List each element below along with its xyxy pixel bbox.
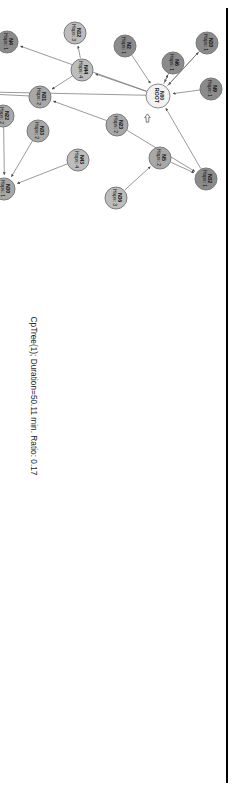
graph-edge	[163, 74, 167, 83]
graph-node-n00[interactable]: N00ROOT	[146, 83, 171, 108]
graph-edge	[164, 72, 168, 81]
figure-caption-area: CpTree(1); Duration=50.11 min. Ratio: 0.…	[21, 0, 45, 791]
node-hops-label: Hops: 2	[112, 115, 117, 132]
graph-node-n12[interactable]: N12Hops: 3	[64, 21, 87, 44]
graph-node-n5[interactable]: N5Hops: 2	[149, 146, 172, 169]
graph-edge	[173, 90, 200, 94]
page-vertical-rule	[226, 8, 228, 783]
node-hops-label: Hops: 1	[2, 32, 7, 49]
graph-edge	[125, 166, 150, 189]
mouse-cursor-icon	[141, 112, 152, 123]
figure-page: N00ROOTN10Hops: 1N9Hops: 1N6Hops: 1N2Hop…	[0, 0, 235, 791]
graph-edge	[3, 126, 4, 174]
graph-edge	[131, 55, 150, 83]
graph-edge	[53, 101, 106, 120]
node-hops-label: Hops: 1	[202, 33, 207, 50]
rotated-figure: N00ROOTN10Hops: 1N9Hops: 1N6Hops: 1N2Hop…	[0, 0, 235, 791]
graph-node-n23[interactable]: N23Hops: 2	[106, 113, 129, 136]
graph-node-n6[interactable]: N6Hops: 1	[162, 51, 185, 74]
node-hops-label: Hops: 2	[155, 148, 160, 165]
node-hops-label: Hops: 1	[206, 79, 211, 96]
node-hops-label: Hops: 4	[73, 150, 78, 167]
graph-node-n44[interactable]: N44Hops: 4	[71, 58, 94, 81]
node-hops-label: Hops: 3	[111, 188, 116, 205]
node-hops-label: Hops: 2	[0, 106, 3, 123]
figure-caption: CpTree(1); Duration=50.11 min. Ratio: 0.…	[28, 316, 38, 475]
node-hops-label: Hops: 3	[70, 23, 75, 40]
graph-node-n9[interactable]: N9Hops: 1	[200, 77, 223, 100]
graph-canvas: N00ROOTN10Hops: 1N9Hops: 1N6Hops: 1N2Hop…	[0, 0, 235, 791]
node-hops-label: Hops: 1	[120, 36, 125, 53]
node-hops-label: Hops: 4	[77, 60, 82, 77]
node-hops-label: Hops: 1	[0, 179, 4, 196]
graph-node-n10[interactable]: N10Hops: 1	[196, 31, 219, 54]
node-hops-label: Hops: 1	[168, 53, 173, 70]
graph-edge	[78, 45, 80, 57]
graph-edge	[52, 75, 73, 88]
graph-node-n2[interactable]: N2Hops: 1	[114, 34, 137, 57]
node-hops-label: ROOT	[153, 88, 158, 103]
graph-node-n36[interactable]: N36Hops: 3	[105, 186, 128, 209]
graph-node-n32[interactable]: N32Hops: 1	[195, 167, 218, 190]
graph-node-n43[interactable]: N43Hops: 4	[67, 148, 90, 171]
node-hops-label: Hops: 1	[201, 169, 206, 186]
